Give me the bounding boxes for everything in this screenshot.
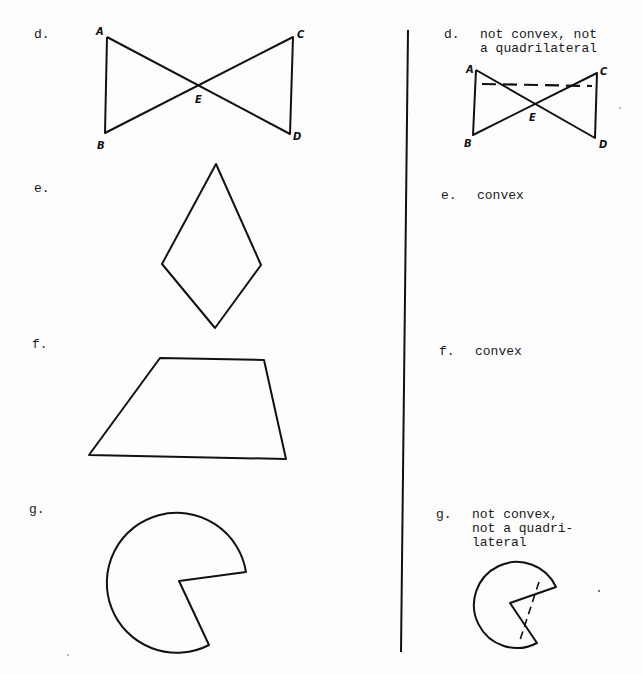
point-label-b: B (464, 138, 472, 149)
right-pacman-figure (474, 562, 556, 648)
left-bowtie-figure (105, 37, 293, 134)
point-label-a: A (465, 64, 474, 75)
point-label-e: E (529, 112, 536, 123)
point-label-c: C (297, 29, 305, 40)
left-kite-figure (162, 164, 261, 328)
speck (67, 654, 69, 656)
point-label-d: D (293, 131, 301, 142)
speck (598, 590, 600, 592)
right-bowtie-figure (473, 70, 597, 138)
point-label-b: B (97, 140, 105, 151)
left-trapezoid-figure (89, 358, 286, 459)
speck (619, 107, 621, 109)
point-label-c: C (600, 66, 608, 77)
left-pacman-figure (107, 513, 246, 653)
figures-canvas: A B C D E A B C D E (0, 0, 643, 674)
point-label-d: D (599, 139, 607, 150)
column-divider (401, 30, 408, 652)
point-label-a: A (95, 26, 104, 37)
worksheet-page: d. e. f. g. d. not convex, not a quadril… (0, 0, 643, 674)
point-label-e: E (195, 94, 202, 105)
